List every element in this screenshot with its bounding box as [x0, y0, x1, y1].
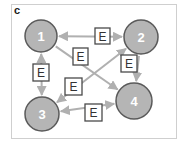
node-1: 1 — [25, 20, 57, 52]
node-4: 4 — [116, 83, 152, 119]
node-3: 3 — [25, 97, 59, 131]
node-label: 3 — [38, 107, 45, 122]
edge-label-box: E — [33, 64, 49, 81]
node-label: 1 — [37, 29, 44, 44]
edge-label-box: E — [85, 104, 102, 121]
node-label: 4 — [130, 94, 138, 109]
edge-label-text: E — [69, 80, 77, 94]
edge-label-box: E — [73, 48, 88, 65]
network-diagram: 1234 EEEEEE — [0, 0, 185, 146]
edge-label-box: E — [65, 78, 82, 95]
edge-label-text: E — [37, 66, 45, 80]
edge-label-text: E — [125, 57, 133, 71]
node-label: 2 — [137, 30, 144, 45]
edge-1-2 — [59, 36, 122, 37]
edge-label-box: E — [121, 55, 137, 72]
edge-label-box: E — [95, 28, 110, 44]
edge-label-text: E — [89, 106, 97, 120]
edge-label-text: E — [98, 30, 106, 44]
edge-label-text: E — [76, 50, 84, 64]
node-2: 2 — [124, 20, 158, 54]
